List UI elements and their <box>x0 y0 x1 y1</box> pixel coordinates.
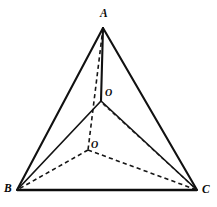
tetrahedron-drawing <box>0 0 217 207</box>
edge-lower-O-to-C <box>88 150 197 190</box>
vertex-label-lower-O: O <box>91 140 98 150</box>
vertex-label-upper-O: O <box>105 88 112 98</box>
vertex-label-C: C <box>202 184 210 196</box>
vertex-label-B: B <box>4 183 12 195</box>
edge-upper-O-to-C <box>101 101 197 190</box>
vertex-label-A: A <box>100 8 108 20</box>
edge-A-to-C <box>103 28 197 190</box>
geometry-figure: A B C O O <box>0 0 217 207</box>
